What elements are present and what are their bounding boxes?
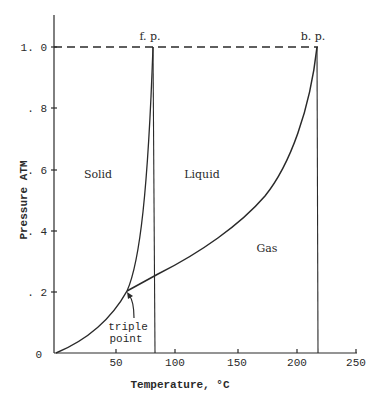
boiling-point-line — [317, 47, 318, 353]
y-tick-0.8: . 8 — [27, 103, 47, 115]
y-tick-0: 0 — [35, 349, 42, 361]
vaporization-curve — [127, 47, 317, 291]
triple-point-arrow — [129, 295, 134, 318]
arrowhead-icon — [127, 292, 133, 299]
fp-label: f. p. — [139, 30, 160, 43]
x-tick-250: 250 — [346, 357, 366, 369]
x-axis-title: Temperature, °C — [130, 379, 229, 391]
triple-point-label-line2: point — [109, 333, 142, 345]
y-tick-0.2: . 2 — [27, 287, 47, 299]
y-axis-title: Pressure ATM — [18, 160, 30, 240]
gas-region-label: Gas — [257, 242, 278, 255]
x-tick-50: 50 — [109, 357, 122, 369]
solid-region-label: Solid — [84, 168, 112, 181]
bp-label: b. p. — [301, 30, 326, 43]
triple-point-label-line1: triple — [108, 321, 148, 333]
x-tick-150: 150 — [227, 357, 247, 369]
phase-diagram: 0 . 2 . 4 . 6 . 8 1. 0 50 100 150 200 25… — [0, 0, 380, 405]
y-tick-0.4: . 4 — [27, 226, 47, 238]
freezing-point-line — [153, 47, 155, 353]
liquid-region-label: Liquid — [184, 168, 220, 181]
x-tick-200: 200 — [287, 357, 307, 369]
melting-curve — [127, 47, 153, 291]
y-tick-1.0: 1. 0 — [21, 42, 47, 54]
y-tick-0.6: . 6 — [27, 165, 47, 177]
x-tick-100: 100 — [165, 357, 185, 369]
